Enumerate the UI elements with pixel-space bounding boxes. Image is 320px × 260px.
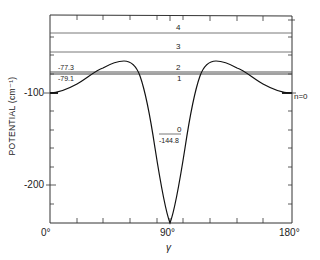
- level-3-label: 3: [176, 43, 180, 51]
- level-0-value: -144.8: [159, 137, 179, 144]
- x-ticks: [77, 15, 263, 223]
- y-axis-label: POTENTIAL (cm⁻¹): [7, 77, 17, 156]
- chart-canvas: [0, 0, 320, 260]
- x-tick-label-0: 0°: [41, 228, 51, 238]
- n0-label: n=0: [294, 93, 308, 101]
- level-2-label: 2: [176, 64, 180, 72]
- axes-frame: [50, 15, 292, 223]
- level-1-label: 1: [177, 75, 181, 83]
- x-tick-label-180: 180°: [279, 228, 300, 238]
- energy-levels: [50, 33, 292, 134]
- level-0-label: 0: [177, 126, 181, 134]
- y-tick-label-minus-200: -200: [24, 180, 44, 190]
- y-tick-label-minus-100: -100: [24, 88, 44, 98]
- x-tick-label-90: 90°: [160, 228, 175, 238]
- level-2-value: -77.3: [58, 64, 74, 71]
- x-axis-label: γ: [166, 242, 171, 253]
- y-ticks: [44, 20, 296, 204]
- level-1-value: -79.1: [58, 75, 74, 82]
- level-4-label: 4: [176, 24, 180, 32]
